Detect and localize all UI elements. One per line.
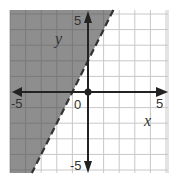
y-tick-pos5: 5 [74,13,81,28]
origin-point [85,89,92,96]
x-axis-label: x [143,112,151,129]
y-tick-neg5: -5 [70,158,82,173]
origin-label: 0 [74,97,81,112]
y-axis-label: y [53,30,63,48]
x-tick-pos5: 5 [156,96,163,111]
coordinate-plane: -5 5 5 -5 0 y x [0,0,176,183]
x-tick-neg5: -5 [11,96,23,111]
